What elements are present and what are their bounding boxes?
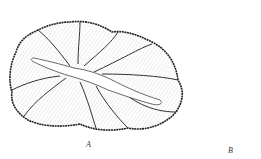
figure-illustration <box>0 0 261 159</box>
panel-a-label: A <box>86 140 91 149</box>
figure-canvas: A B <box>0 0 261 159</box>
panel-b-label: B <box>228 146 233 155</box>
panel-a-drawing <box>10 21 182 130</box>
